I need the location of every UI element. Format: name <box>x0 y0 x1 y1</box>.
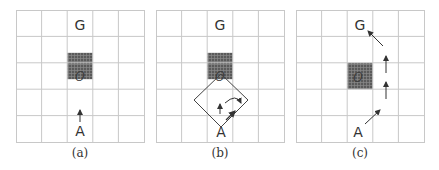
goal-label: G <box>355 17 366 33</box>
panel-b: G O A (b) <box>156 0 296 170</box>
agent-label: A <box>353 124 363 140</box>
agent-label: A <box>75 123 85 139</box>
caption-c: (c) <box>296 146 424 160</box>
caption-b: (b) <box>156 146 284 160</box>
goal-label: G <box>75 17 86 33</box>
panel-c: G O A (c) <box>296 0 436 170</box>
grid-diagram-c: G O A <box>296 0 436 146</box>
grid-diagram-a: G O A <box>16 0 156 146</box>
agent-label: A <box>216 124 226 140</box>
caption-a: (a) <box>16 146 144 160</box>
obstacle-label: O <box>75 70 85 84</box>
path-arrow-4-icon <box>368 31 383 46</box>
obstacle-label: O <box>353 71 363 85</box>
goal-label: G <box>215 17 226 33</box>
grid-diagram-b: G O A <box>156 0 296 146</box>
panel-a: G O A (a) <box>16 0 156 170</box>
